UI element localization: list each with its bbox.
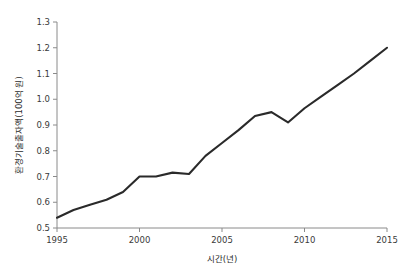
y-axis-tick-label: 0.7 xyxy=(36,172,50,182)
y-axis-tick-label: 1.2 xyxy=(36,43,50,53)
y-axis-tick-group: 0.50.60.70.80.91.01.11.21.3 xyxy=(36,17,57,233)
data-series-line xyxy=(57,48,387,218)
x-axis-tick-group: 19952000200520102015 xyxy=(46,228,398,245)
chart-canvas: 0.50.60.70.80.91.01.11.21.3 199520002005… xyxy=(0,0,409,273)
x-axis-tick-label: 2015 xyxy=(376,235,398,245)
x-axis-tick-label: 2005 xyxy=(211,235,233,245)
y-axis-tick-label: 1.1 xyxy=(36,69,50,79)
x-axis-tick-label: 2010 xyxy=(294,235,316,245)
y-axis-tick-label: 1.3 xyxy=(36,17,50,27)
x-axis-title: 시간(년) xyxy=(207,254,238,264)
y-axis-tick-label: 0.6 xyxy=(36,197,50,207)
y-axis-tick-label: 0.9 xyxy=(36,120,50,130)
y-axis-tick-label: 0.5 xyxy=(36,223,50,233)
y-axis-tick-label: 1.0 xyxy=(36,94,50,104)
line-chart-figure: 0.50.60.70.80.91.01.11.21.3 199520002005… xyxy=(0,0,409,273)
y-axis-tick-label: 0.8 xyxy=(36,146,50,156)
x-axis-tick-label: 2000 xyxy=(129,235,151,245)
x-axis-tick-label: 1995 xyxy=(46,235,68,245)
y-axis-title: 환경기술출자액(100억 원) xyxy=(14,76,24,174)
